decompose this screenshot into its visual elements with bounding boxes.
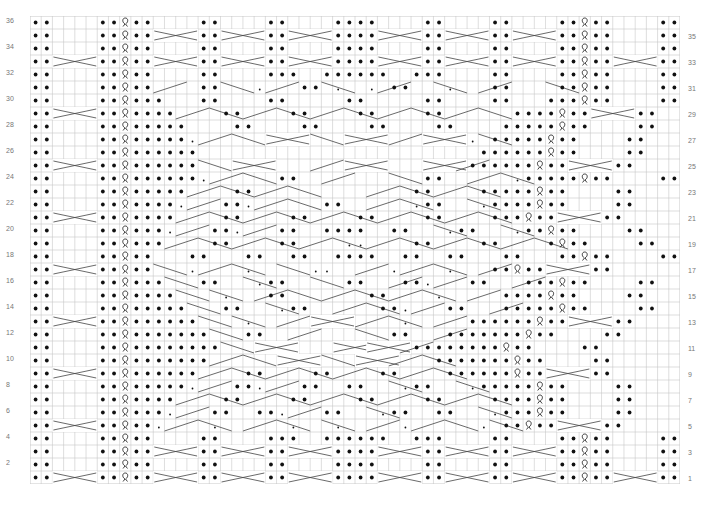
purl-stitch-icon (135, 268, 139, 272)
purl-stitch-icon (34, 450, 38, 454)
purl-stitch-icon (269, 34, 273, 38)
purl-stitch-icon (191, 151, 195, 155)
purl-stitch-icon (661, 450, 665, 454)
purl-stitch-icon (101, 229, 105, 233)
purl-stitch-icon (650, 307, 654, 311)
purl-stitch-icon (146, 385, 150, 389)
purl-stitch-icon (572, 229, 576, 233)
purl-stitch-icon (258, 372, 262, 376)
purl-stitch-icon (157, 372, 161, 376)
purl-stitch-icon (493, 34, 497, 38)
purl-stitch-icon (157, 151, 161, 155)
purl-stitch-icon (471, 229, 475, 233)
purl-stitch-icon (527, 125, 531, 129)
purl-stitch-icon (224, 307, 228, 311)
purl-stitch-icon (370, 21, 374, 25)
purl-stitch-icon (605, 99, 609, 103)
purl-stitch-icon (471, 333, 475, 337)
purl-stitch-icon (280, 450, 284, 454)
purl-stitch-icon (157, 112, 161, 116)
purl-stitch-icon (437, 346, 441, 350)
purl-stitch-icon (314, 86, 318, 90)
purl-stitch-icon (482, 242, 486, 246)
purl-stitch-icon (34, 151, 38, 155)
small-purl-dot-icon (405, 310, 407, 312)
purl-stitch-icon (661, 437, 665, 441)
purl-stitch-icon (101, 164, 105, 168)
purl-stitch-icon (179, 151, 183, 155)
purl-stitch-icon (135, 450, 139, 454)
purl-stitch-icon (157, 281, 161, 285)
purl-stitch-icon (560, 164, 564, 168)
purl-stitch-icon (639, 125, 643, 129)
purl-stitch-icon (146, 86, 150, 90)
purl-stitch-icon (45, 138, 49, 142)
purl-stitch-icon (560, 138, 564, 142)
purl-stitch-icon (493, 242, 497, 246)
purl-stitch-icon (325, 437, 329, 441)
purl-stitch-icon (168, 164, 172, 168)
purl-stitch-icon (572, 463, 576, 467)
purl-stitch-icon (291, 229, 295, 233)
purl-stitch-icon (146, 398, 150, 402)
purl-stitch-icon (168, 190, 172, 194)
purl-stitch-icon (135, 398, 139, 402)
purl-stitch-icon (549, 164, 553, 168)
purl-stitch-icon (572, 73, 576, 77)
purl-stitch-icon (661, 177, 665, 181)
purl-stitch-icon (112, 398, 116, 402)
purl-stitch-icon (370, 34, 374, 38)
row-number-33: 33 (688, 59, 696, 66)
small-purl-dot-icon (192, 141, 194, 143)
purl-stitch-icon (157, 216, 161, 220)
purl-stitch-icon (157, 359, 161, 363)
purl-stitch-icon (34, 203, 38, 207)
purl-stitch-icon (45, 47, 49, 51)
purl-stitch-icon (538, 372, 542, 376)
purl-stitch-icon (504, 164, 508, 168)
purl-stitch-icon (426, 34, 430, 38)
row-number-6: 6 (6, 407, 10, 414)
small-purl-dot-icon (259, 284, 261, 286)
purl-stitch-icon (560, 34, 564, 38)
purl-stitch-icon (549, 424, 553, 428)
purl-stitch-icon (45, 151, 49, 155)
purl-stitch-icon (135, 359, 139, 363)
row-number-26: 26 (6, 147, 14, 154)
purl-stitch-icon (504, 476, 508, 480)
purl-stitch-icon (135, 229, 139, 233)
purl-stitch-icon (34, 398, 38, 402)
purl-stitch-icon (628, 320, 632, 324)
purl-stitch-icon (135, 255, 139, 259)
purl-stitch-icon (661, 255, 665, 259)
purl-stitch-icon (34, 47, 38, 51)
purl-stitch-icon (135, 138, 139, 142)
purl-stitch-icon (269, 463, 273, 467)
purl-stitch-icon (202, 21, 206, 25)
purl-stitch-icon (560, 450, 564, 454)
purl-stitch-icon (112, 203, 116, 207)
purl-stitch-icon (471, 346, 475, 350)
purl-stitch-icon (504, 411, 508, 415)
purl-stitch-icon (112, 359, 116, 363)
purl-stitch-icon (280, 73, 284, 77)
purl-stitch-icon (224, 216, 228, 220)
purl-stitch-icon (482, 281, 486, 285)
purl-stitch-icon (392, 229, 396, 233)
purl-stitch-icon (504, 424, 508, 428)
purl-stitch-icon (45, 164, 49, 168)
purl-stitch-icon (202, 255, 206, 259)
purl-stitch-icon (269, 21, 273, 25)
purl-stitch-icon (146, 21, 150, 25)
purl-stitch-icon (504, 151, 508, 155)
purl-stitch-icon (112, 320, 116, 324)
purl-stitch-icon (504, 190, 508, 194)
purl-stitch-icon (437, 398, 441, 402)
purl-stitch-icon (112, 346, 116, 350)
purl-stitch-icon (594, 450, 598, 454)
purl-stitch-icon (45, 385, 49, 389)
purl-stitch-icon (101, 125, 105, 129)
purl-stitch-icon (616, 424, 620, 428)
purl-stitch-icon (336, 60, 340, 64)
purl-stitch-icon (504, 34, 508, 38)
